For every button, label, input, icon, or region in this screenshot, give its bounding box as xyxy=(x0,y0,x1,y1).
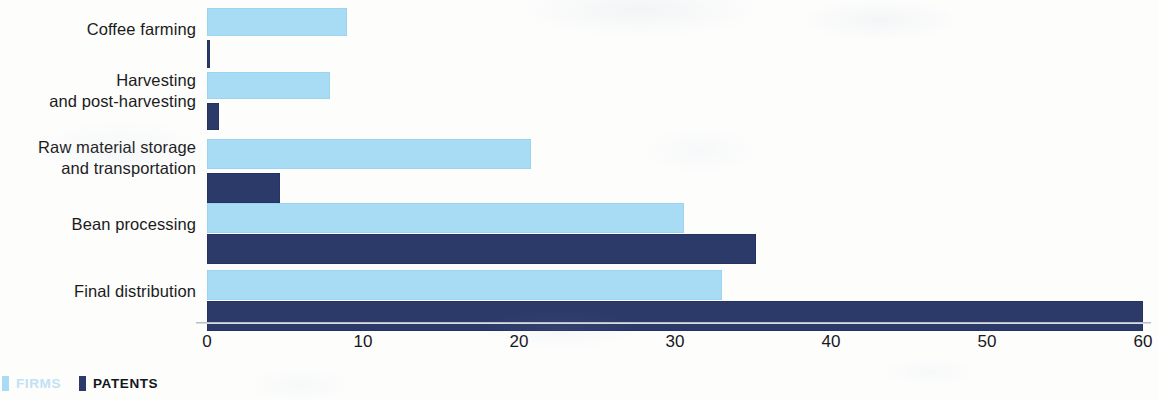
legend-item-firms[interactable]: FIRMS xyxy=(2,376,61,391)
x-tick-label: 40 xyxy=(801,332,861,352)
bar-patents[interactable] xyxy=(207,40,210,68)
bar-patents[interactable] xyxy=(207,103,219,130)
x-tick-label: 60 xyxy=(1113,332,1158,352)
category-label-line: Final distribution xyxy=(0,281,196,302)
chart-legend: FIRMS PATENTS xyxy=(2,376,158,391)
category-label: Bean processing xyxy=(0,214,196,235)
x-tick-label: 30 xyxy=(645,332,705,352)
legend-swatch-patents xyxy=(79,376,86,391)
category-label-line: and post-harvesting xyxy=(0,91,196,112)
category-label-line: Raw material storage xyxy=(0,137,196,158)
bar-patents[interactable] xyxy=(207,173,280,203)
legend-label-patents: PATENTS xyxy=(93,376,158,391)
x-axis-line xyxy=(196,322,1151,324)
category-label: Coffee farming xyxy=(0,19,196,40)
category-label: Raw material storageand transportation xyxy=(0,137,196,179)
bar-patents[interactable] xyxy=(207,301,1143,331)
bar-patents[interactable] xyxy=(207,234,756,264)
grouped-bar-chart: Coffee farmingHarvestingand post-harvest… xyxy=(0,0,1158,400)
legend-label-firms: FIRMS xyxy=(16,376,61,391)
bar-firms[interactable] xyxy=(207,8,347,36)
category-label: Harvestingand post-harvesting xyxy=(0,70,196,112)
bar-firms[interactable] xyxy=(207,270,722,300)
bar-firms[interactable] xyxy=(207,203,684,233)
x-tick-label: 10 xyxy=(333,332,393,352)
legend-item-patents[interactable]: PATENTS xyxy=(79,376,158,391)
category-label-line: and transportation xyxy=(0,158,196,179)
x-tick-label: 50 xyxy=(957,332,1017,352)
bar-firms[interactable] xyxy=(207,139,531,169)
legend-swatch-firms xyxy=(2,376,9,391)
bar-firms[interactable] xyxy=(207,72,330,99)
x-tick-label: 0 xyxy=(177,332,237,352)
category-label-line: Harvesting xyxy=(0,70,196,91)
category-label-line: Coffee farming xyxy=(0,19,196,40)
x-tick-label: 20 xyxy=(489,332,549,352)
category-label: Final distribution xyxy=(0,281,196,302)
category-label-line: Bean processing xyxy=(0,214,196,235)
